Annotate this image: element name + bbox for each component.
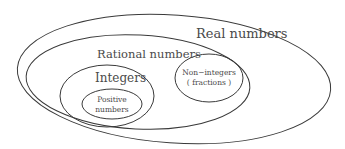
non-integers-label-line2: ( fractions ): [187, 78, 231, 87]
rational-numbers-label: Rational numbers: [97, 47, 201, 61]
positive-numbers-set: [82, 89, 142, 119]
number-sets-diagram: Real numbers Rational numbers Integers P…: [0, 0, 345, 149]
real-numbers-label: Real numbers: [196, 26, 288, 41]
positive-numbers-label-line1: Positive: [97, 95, 127, 104]
integers-label: Integers: [95, 71, 146, 85]
positive-numbers-label-line2: numbers: [95, 105, 129, 114]
non-integers-label-line1: Non−integers: [182, 68, 236, 77]
